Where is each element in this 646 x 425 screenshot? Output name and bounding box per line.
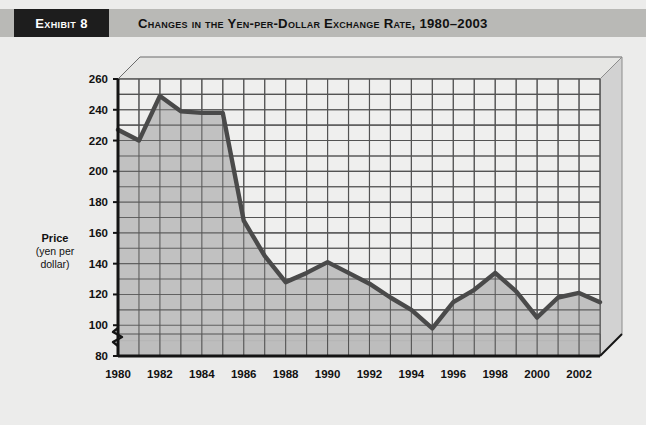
exhibit-tag-label: Exhibit 8 [35,16,88,31]
y-tick-label: 180 [89,196,108,208]
x-tick-label: 1988 [273,368,299,380]
y-axis-title-sub-2: dollar) [22,258,88,271]
chart-svg: 8010012014016018020022024026019801982198… [0,40,646,425]
x-tick-label: 2000 [524,368,550,380]
chart-right-wall [600,57,622,356]
x-tick-label: 1996 [441,368,467,380]
y-tick-label: 200 [89,165,108,177]
y-axis-title: Price (yen per dollar) [22,232,88,271]
x-tick-label: 1994 [399,368,425,380]
y-tick-label: 120 [89,288,108,300]
x-tick-label: 1998 [482,368,508,380]
x-tick-label: 2002 [566,368,592,380]
y-tick-label: 240 [89,104,108,116]
x-tick-label: 1992 [357,368,383,380]
y-tick-label: 100 [89,319,108,331]
y-axis-title-sub-1: (yen per [22,245,88,258]
y-tick-label: 220 [89,135,108,147]
chart-plot-area: 8010012014016018020022024026019801982198… [0,40,646,425]
x-tick-label: 1990 [315,368,341,380]
x-tick-label: 1984 [189,368,215,380]
y-tick-label: 260 [89,73,108,85]
page-title: Changes in the Yen-per-Dollar Exchange R… [138,9,488,37]
exhibit-tag: Exhibit 8 [14,9,109,37]
x-tick-label: 1980 [105,368,131,380]
chart-top-face [118,57,622,79]
y-tick-label: 160 [89,227,108,239]
y-axis-title-main: Price [22,232,88,245]
chart-title-text: Changes in the Yen-per-Dollar Exchange R… [138,16,488,31]
y-tick-label: 140 [89,258,108,270]
x-tick-label: 1982 [147,368,173,380]
chart-floor-band [118,334,600,356]
y-tick-label: 80 [95,350,108,362]
x-tick-label: 1986 [231,368,257,380]
exhibit-figure: Exhibit 8 Changes in the Yen-per-Dollar … [0,0,646,425]
